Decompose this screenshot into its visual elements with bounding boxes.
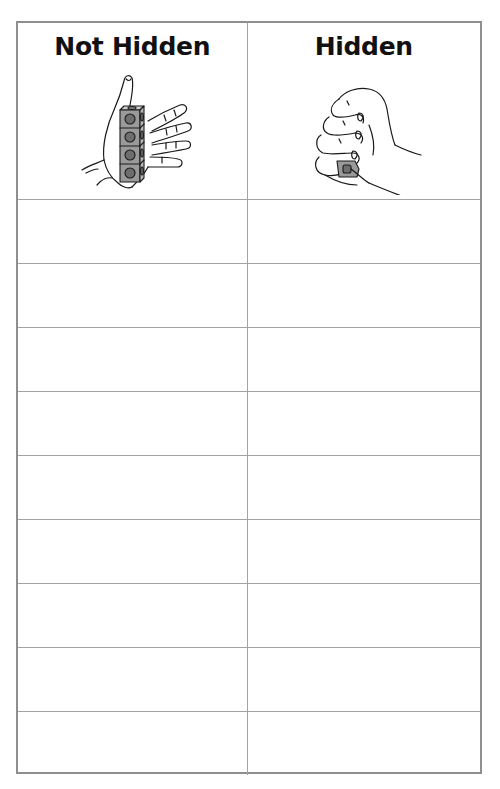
worksheet-table: Not Hidden [16,21,482,774]
table-row [18,327,480,391]
table-row [18,455,480,519]
header-row: Not Hidden [18,23,480,199]
column-title-hidden: Hidden [248,32,481,62]
table-row [18,711,480,775]
write-cell-not-hidden[interactable] [18,263,247,327]
write-cell-not-hidden[interactable] [18,455,247,519]
write-cell-not-hidden[interactable] [18,327,247,391]
open-hand-holding-cube-stack-icon [18,65,247,195]
table-row [18,519,480,583]
write-cell-hidden[interactable] [247,327,480,391]
header-cell-not-hidden: Not Hidden [18,23,247,199]
table-row [18,263,480,327]
write-cell-not-hidden[interactable] [18,583,247,647]
table-row [18,583,480,647]
write-cell-hidden[interactable] [247,647,480,711]
write-cell-hidden[interactable] [247,391,480,455]
write-cell-hidden[interactable] [247,519,480,583]
table-row [18,647,480,711]
table-row [18,391,480,455]
write-cell-hidden[interactable] [247,199,480,263]
header-cell-hidden: Hidden [247,23,480,199]
recording-grid: Not Hidden [18,23,480,775]
write-cell-not-hidden[interactable] [18,391,247,455]
write-cell-hidden[interactable] [247,455,480,519]
write-cell-hidden[interactable] [247,583,480,647]
write-cell-not-hidden[interactable] [18,519,247,583]
closed-fist-hiding-cubes-icon [248,65,481,195]
write-cell-not-hidden[interactable] [18,711,247,775]
table-row [18,199,480,263]
write-cell-not-hidden[interactable] [18,199,247,263]
write-cell-not-hidden[interactable] [18,647,247,711]
column-title-not-hidden: Not Hidden [18,32,247,62]
write-cell-hidden[interactable] [247,711,480,775]
write-cell-hidden[interactable] [247,263,480,327]
